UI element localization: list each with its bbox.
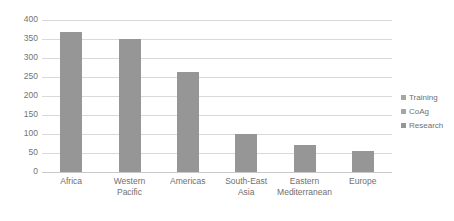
y-axis-tick-label: 300	[4, 53, 38, 62]
x-axis-label: South-East Asia	[217, 176, 275, 197]
y-axis-tick-label: 350	[4, 34, 38, 43]
gridline	[42, 172, 392, 173]
legend-item[interactable]: CoAg	[401, 104, 454, 118]
bar-chart: 050100150200250300350400 AfricaWestern P…	[0, 0, 454, 221]
y-axis-tick-label: 100	[4, 129, 38, 138]
legend-label: CoAg	[409, 107, 429, 116]
chart-legend: TrainingCoAgResearch	[401, 90, 454, 132]
legend-swatch-icon	[401, 95, 406, 100]
x-axis-label: Eastern Mediterranean	[275, 176, 333, 197]
legend-label: Research	[409, 121, 443, 130]
y-axis-tick-label: 400	[4, 15, 38, 24]
legend-item[interactable]: Research	[401, 118, 454, 132]
y-axis-tick-label: 200	[4, 91, 38, 100]
x-axis-labels: AfricaWestern PacificAmericasSouth-East …	[42, 176, 392, 218]
legend-swatch-icon	[401, 109, 406, 114]
bar	[119, 39, 141, 172]
y-axis-tick-label: 150	[4, 110, 38, 119]
bar-series-research	[42, 20, 392, 172]
bar	[60, 32, 82, 172]
x-axis-label: Americas	[159, 176, 217, 187]
legend-label: Training	[409, 93, 438, 102]
bar	[352, 151, 374, 172]
x-axis-label: Western Pacific	[100, 176, 158, 197]
y-axis-ticks: 050100150200250300350400	[0, 20, 38, 172]
y-axis-tick-label: 0	[4, 167, 38, 176]
bar	[294, 145, 316, 172]
y-axis-tick-label: 250	[4, 72, 38, 81]
plot-area	[42, 20, 392, 172]
y-axis-tick-label: 50	[4, 148, 38, 157]
legend-item[interactable]: Training	[401, 90, 454, 104]
x-axis-label: Europe	[334, 176, 392, 187]
x-axis-label: Africa	[42, 176, 100, 187]
bar	[235, 134, 257, 172]
bar	[177, 72, 199, 172]
legend-swatch-icon	[401, 123, 406, 128]
